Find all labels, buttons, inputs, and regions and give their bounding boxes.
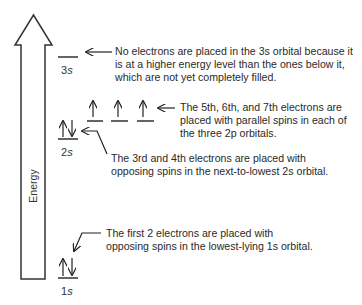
orbital-label-3s: 3s [61,64,73,76]
note-2s: The 3rd and 4th electrons are placed wit… [111,152,328,178]
orbital-label-1s: 1s [61,285,73,297]
note-3s: No electrons are placed in the 3s orbita… [115,45,353,85]
energy-axis-arrow [15,15,52,279]
pointer-1s-arrow [74,233,101,251]
energy-axis-label: Energy [27,164,39,208]
note-1s: The first 2 electrons are placed with op… [106,227,313,253]
orbital-2p-group [87,101,154,121]
pointer-2s-arrow [82,131,107,154]
orbital-label-2s: 2s [61,146,73,158]
note-2p: The 5th, 6th, and 7th electrons are plac… [180,101,347,141]
